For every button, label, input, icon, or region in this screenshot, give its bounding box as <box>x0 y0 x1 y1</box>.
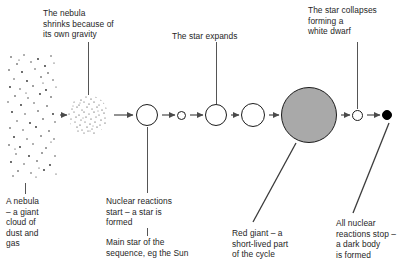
stellar-lifecycle-diagram: The nebula shrinks because of its own gr… <box>0 0 414 273</box>
label-star-expands: The star expands <box>172 31 238 42</box>
label-nebula-shrinks: The nebula shrinks because of its own gr… <box>43 8 114 40</box>
label-main-sequence: Main star of the sequence, eg the Sun <box>106 237 189 258</box>
label-red-giant: Red giant – a short-lived part of the cy… <box>232 228 288 260</box>
label-star-collapses: The star collapses forming a white dwarf <box>308 5 377 37</box>
label-nuclear-start: Nuclear reactions start – a star is form… <box>106 196 172 228</box>
label-nebula: A nebula – a giant cloud of dust and gas <box>6 196 39 249</box>
label-dark-body: All nuclear reactions stop – a dark body… <box>336 218 396 260</box>
